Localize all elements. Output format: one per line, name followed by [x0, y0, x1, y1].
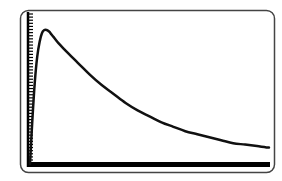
chart [0, 0, 282, 181]
chart-frame [21, 11, 275, 173]
x-axis [27, 162, 270, 167]
